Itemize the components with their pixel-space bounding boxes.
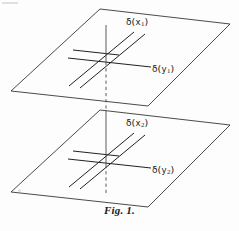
upper-delta-y-line-2	[68, 58, 151, 67]
paren-close-x2: )	[144, 117, 148, 128]
upper-delta-x-line-2	[80, 34, 145, 88]
paren-close-x1: )	[144, 16, 148, 27]
label-delta-x2: δ(x2)	[126, 117, 148, 128]
lower-plane-outline	[11, 110, 230, 207]
variable-x1: x	[135, 17, 140, 27]
scan-artifact	[18, 189, 21, 192]
upper-delta-x-lines	[69, 32, 145, 88]
lower-delta-y-line-2	[68, 159, 151, 168]
figure-drawing	[0, 0, 239, 231]
figure-container: δ(x1) δ(y1) δ(x2) δ(y2) Fig. 1.	[0, 0, 239, 231]
lower-delta-x-lines	[69, 133, 145, 189]
upper-plane-outline	[11, 9, 230, 106]
lower-plane-group	[11, 110, 230, 207]
label-delta-y1: δ(y1)	[152, 63, 174, 74]
label-delta-x1: δ(x1)	[126, 16, 148, 27]
lower-delta-x-line-2	[80, 135, 145, 189]
variable-y2: y	[161, 165, 166, 175]
variable-y1: y	[161, 64, 166, 74]
variable-x2: x	[135, 118, 140, 128]
paren-close-y1: )	[170, 63, 174, 74]
paren-close-y2: )	[170, 164, 174, 175]
scan-artifact	[2, 2, 18, 4]
label-delta-y2: δ(y2)	[152, 164, 174, 175]
figure-caption: Fig. 1.	[0, 204, 239, 216]
upper-plane-group	[11, 9, 230, 110]
